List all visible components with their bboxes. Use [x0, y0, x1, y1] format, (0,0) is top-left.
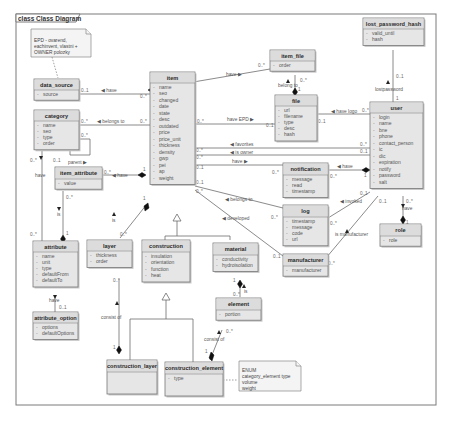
class-attribute: density	[159, 149, 175, 155]
class-name: attribute_option	[34, 315, 77, 321]
svg-text:0..*: 0..*	[330, 221, 337, 226]
class-material[interactable]: material-conductivity-hydroisolation	[213, 243, 260, 273]
class-user[interactable]: user-login-name-bne-phone-contact_person…	[370, 102, 425, 190]
svg-text:◀ have: ◀ have	[112, 173, 128, 178]
class-element[interactable]: element-portion	[216, 298, 263, 322]
class-attribute: type	[42, 265, 52, 271]
class-data-source[interactable]: data_source-source	[34, 79, 81, 102]
class-attribute: value	[64, 180, 76, 186]
class-item[interactable]: item-name-seo-changed-date-state-desc-ou…	[150, 72, 197, 186]
svg-text:is: is	[57, 212, 61, 217]
svg-text:EPD - ovarend,: EPD - ovarend,	[34, 38, 67, 43]
class-name: lost_password_hash	[366, 21, 422, 27]
class-attribute: gwp	[159, 155, 168, 161]
class-attribute: message	[292, 224, 313, 230]
svg-text:0..1: 0..1	[318, 119, 326, 124]
svg-text:eachinvent, vlastni +: eachinvent, vlastni +	[34, 44, 78, 49]
class-notification[interactable]: notification-message-read-timestamp	[283, 163, 330, 199]
class-construction[interactable]: construction-insulation-orientation-func…	[142, 240, 192, 284]
class-name: notification	[290, 166, 321, 172]
class-log[interactable]: log-timestamp-message-code-url	[283, 205, 330, 247]
svg-text:0..1: 0..1	[81, 88, 89, 93]
class-construction-element[interactable]: construction_element-type	[165, 362, 225, 398]
svg-text:◀ have logo: ◀ have logo	[331, 109, 357, 114]
class-attribute: expiration	[379, 159, 401, 165]
class-attribute: manufacturer	[292, 267, 322, 273]
class-attribute-option[interactable]: attribute_option-options-defaultOptions	[33, 312, 80, 341]
class-construction-layer[interactable]: construction_layer	[107, 360, 159, 396]
svg-text:have ▶: have ▶	[226, 72, 242, 77]
class-name: role	[395, 227, 405, 233]
class-name: log	[301, 208, 310, 214]
svg-text:1: 1	[143, 167, 146, 172]
class-attribute: options	[42, 324, 59, 330]
class-attribute: login	[379, 114, 390, 120]
svg-text:is: is	[112, 218, 116, 223]
svg-text:◀ is owner: ◀ is owner	[230, 150, 254, 155]
class-attribute: bne	[379, 127, 388, 133]
class-layer[interactable]: layer-thickness-order	[87, 240, 134, 269]
svg-text:0..1: 0..1	[196, 165, 204, 170]
class-attribute: order	[96, 258, 108, 264]
class-attribute: name	[379, 120, 392, 126]
class-attribute: hash	[372, 36, 383, 42]
class-item-attribute[interactable]: item_attribute-value	[55, 167, 104, 191]
class-attribute: source	[43, 91, 58, 97]
svg-text:0..*: 0..*	[81, 119, 88, 124]
class-attribute: heat	[151, 272, 161, 278]
class-role[interactable]: role-role	[380, 224, 423, 248]
class-attribute: salt	[379, 179, 387, 185]
class-attribute: defaultOptions	[42, 330, 75, 336]
svg-text:0..1: 0..1	[273, 254, 281, 259]
class-lost-password-hash[interactable]: lost_password_hash-valid_until-hash	[363, 18, 426, 47]
class-diagram: class Class Diagram	[0, 0, 450, 429]
svg-text:is: is	[244, 289, 248, 294]
class-item-file[interactable]: item_file-order	[270, 50, 317, 73]
class-attribute: type	[284, 119, 294, 125]
svg-text:0..*: 0..*	[30, 158, 37, 163]
svg-text:0..1: 0..1	[59, 305, 67, 310]
svg-text:◀ favorites: ◀ favorites	[230, 142, 254, 147]
svg-text:consist of: consist of	[101, 315, 122, 320]
class-attribute: message	[292, 176, 313, 182]
svg-text:1: 1	[143, 196, 146, 201]
class-attribute: url	[284, 107, 290, 113]
class-attribute: name	[159, 84, 172, 90]
class-attribute: changed	[159, 97, 178, 103]
class-attribute: defaultTo	[42, 277, 63, 283]
class-attribute: ic	[379, 146, 383, 152]
svg-text:have: have	[35, 173, 46, 178]
svg-text:0..*: 0..*	[233, 292, 240, 297]
class-attribute[interactable]: attribute-name-unit-type-defaultFrom-def…	[33, 241, 80, 289]
class-attribute: weight	[159, 175, 174, 181]
class-attribute: name	[42, 253, 55, 259]
svg-text:0..*: 0..*	[196, 148, 203, 153]
class-attribute: order	[43, 140, 55, 146]
class-attribute: insulation	[151, 253, 172, 259]
svg-text:0..*: 0..*	[140, 119, 147, 124]
svg-text:0..*: 0..*	[272, 170, 279, 175]
svg-text:0..*: 0..*	[271, 215, 278, 220]
svg-text:0..*: 0..*	[140, 94, 147, 99]
svg-text:1: 1	[233, 278, 236, 283]
svg-text:0..*: 0..*	[226, 329, 233, 334]
svg-text:0..*: 0..*	[258, 63, 265, 68]
class-attribute: desc	[284, 125, 295, 131]
svg-text:consist of: consist of	[204, 337, 225, 342]
class-file[interactable]: file-url-filename-type-desc-hash	[275, 95, 319, 143]
class-attribute: order	[279, 62, 291, 68]
class-name: material	[225, 246, 247, 252]
svg-text:0..1: 0..1	[196, 180, 204, 185]
class-name: data_source	[40, 82, 73, 88]
svg-text:parent ▶: parent ▶	[68, 160, 87, 165]
class-attribute: thickness	[96, 252, 117, 258]
class-category[interactable]: category-name-seo-type-order	[34, 110, 81, 151]
class-attribute: type	[174, 375, 184, 381]
svg-text:have EPD ▶: have EPD ▶	[227, 117, 254, 122]
note-epd: EPD - ovarend, eachinvent, vlastni + OWN…	[31, 29, 91, 57]
class-attribute: hash	[284, 131, 295, 137]
class-name: element	[228, 301, 249, 307]
class-attribute: role	[389, 237, 398, 243]
svg-text:0..1: 0..1	[379, 199, 387, 204]
class-manufacturer[interactable]: manufacturer-manufacturer	[283, 254, 330, 278]
